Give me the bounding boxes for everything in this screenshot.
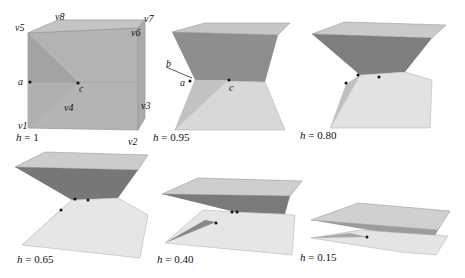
point-label-b-p2: b	[166, 59, 171, 69]
point-label-c-p1: c	[79, 84, 83, 94]
figure-canvas	[0, 0, 465, 278]
vertex-label-v4: v4	[64, 103, 73, 113]
vertex-label-v2: v2	[128, 137, 137, 147]
h-label-panel-6: h = 0.15	[300, 252, 336, 263]
point-label-c-p2: c	[229, 83, 233, 93]
vertex-label-v6: v6	[131, 28, 140, 38]
h-label-panel-1: h = 1	[16, 132, 39, 143]
h-label-panel-3: h = 0.80	[300, 130, 336, 141]
panel-h065-shape	[15, 152, 148, 258]
h-label-panel-5: h = 0.40	[157, 254, 193, 265]
panel-h040-shape	[162, 178, 302, 255]
point-label-a-p2: a	[180, 78, 185, 88]
vertex-label-v3: v3	[141, 101, 150, 111]
panel-h1-cube	[28, 20, 145, 130]
point-label-a-p1: a	[18, 77, 23, 87]
panel-h080-shape	[312, 22, 446, 128]
h-label-panel-4: h = 0.65	[17, 254, 53, 265]
vertex-label-v5: v5	[15, 23, 24, 33]
vertex-label-v1: v1	[18, 121, 27, 131]
panel-h015-shape	[311, 203, 450, 255]
h-label-panel-2: h = 0.95	[153, 132, 189, 143]
vertex-label-v8: v8	[55, 12, 64, 22]
vertex-label-v7: v7	[144, 14, 153, 24]
